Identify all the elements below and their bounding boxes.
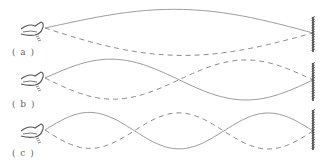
fixed-wall-icon xyxy=(312,110,316,151)
solid-wave-c xyxy=(45,112,313,148)
solid-wave-b xyxy=(45,59,313,100)
wave-panel-b xyxy=(21,59,315,101)
fixed-wall-icon xyxy=(312,17,316,53)
motion-lines-icon xyxy=(36,36,41,41)
solid-wave-a xyxy=(45,9,313,33)
motion-lines-icon xyxy=(36,138,41,143)
hand-icon xyxy=(21,124,43,143)
dashed-wave-a xyxy=(45,28,313,55)
motion-lines-icon xyxy=(36,86,41,91)
dashed-wave-c xyxy=(45,113,313,149)
standing-waves-figure: ( a ) ( b ) ( c ) xyxy=(0,0,334,165)
standing-waves-canvas xyxy=(0,0,334,165)
panel-label-a: ( a ) xyxy=(12,47,35,57)
panel-label-b: ( b ) xyxy=(12,99,36,109)
wave-panel-a xyxy=(21,9,315,55)
wave-panel-c xyxy=(21,110,315,151)
hand-icon xyxy=(21,72,43,91)
fixed-wall-icon xyxy=(312,63,316,102)
panel-label-c: ( c ) xyxy=(12,148,35,158)
hand-icon xyxy=(21,22,43,41)
